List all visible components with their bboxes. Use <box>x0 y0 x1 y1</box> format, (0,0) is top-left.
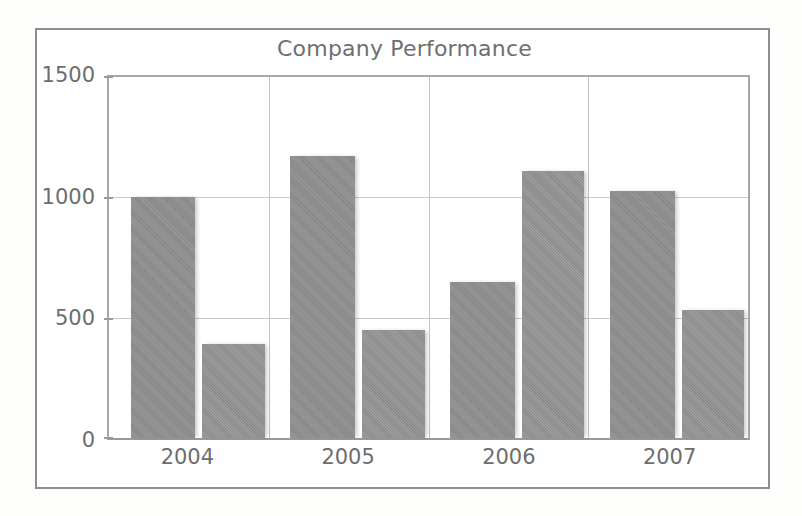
bar-2004-series2 <box>202 344 265 438</box>
bar-2005-series1 <box>290 156 355 438</box>
bar-2007-series1 <box>610 191 675 438</box>
y-tick-mark-0 <box>104 437 113 439</box>
bar-2006-series2 <box>522 171 585 438</box>
bar-2005-series2 <box>362 330 425 438</box>
bar-2006-series1 <box>450 282 515 438</box>
category-separator-1 <box>269 77 270 438</box>
y-tick-mark-1500 <box>104 76 113 78</box>
y-tick-mark-1000 <box>104 197 113 199</box>
y-tick-label-1000: 1000 <box>42 185 95 209</box>
x-tick-label-2006: 2006 <box>482 445 535 469</box>
chart-frame: Company Performance 1500 1000 500 0 <box>35 28 770 489</box>
bar-2004-series1 <box>131 197 196 438</box>
y-axis: 1500 1000 500 0 <box>37 75 95 440</box>
x-axis: 2004 2005 2006 2007 <box>107 445 750 485</box>
bar-2007-series2 <box>682 310 745 438</box>
plot-area <box>107 75 750 440</box>
x-tick-label-2004: 2004 <box>161 445 214 469</box>
y-tick-label-500: 500 <box>55 306 95 330</box>
category-separator-2 <box>429 77 430 438</box>
scanned-page-background: Company Performance 1500 1000 500 0 <box>0 0 802 516</box>
chart-title: Company Performance <box>37 36 772 61</box>
y-tick-label-1500: 1500 <box>42 63 95 87</box>
x-tick-label-2005: 2005 <box>321 445 374 469</box>
y-tick-label-0: 0 <box>82 428 95 452</box>
category-separator-3 <box>588 77 589 438</box>
x-tick-label-2007: 2007 <box>643 445 696 469</box>
y-tick-mark-500 <box>104 318 113 320</box>
